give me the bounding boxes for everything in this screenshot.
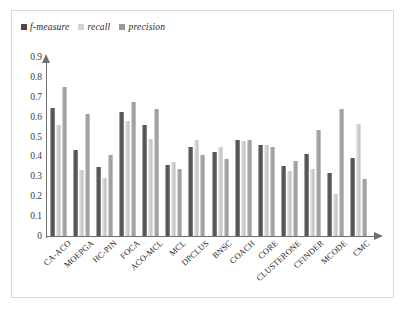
x-axis-tick-label: CMC — [351, 238, 372, 258]
bar-precision[interactable] — [108, 155, 113, 236]
bar-group — [347, 64, 370, 236]
y-axis-tick-label: 0.8 — [30, 73, 42, 83]
figure-container: f-measurerecallprecision 00.10.20.30.40.… — [0, 0, 406, 314]
legend-swatch-icon — [119, 24, 125, 30]
bar-precision[interactable] — [200, 155, 205, 236]
y-axis-tick-label: 0 — [37, 232, 42, 242]
bar-precision[interactable] — [316, 130, 321, 236]
x-axis-tick-label: HC-PIN — [90, 238, 118, 265]
bar-f-measure[interactable] — [304, 154, 309, 236]
bar-recall[interactable] — [333, 194, 338, 236]
bar-group — [116, 64, 139, 236]
bar-group — [185, 64, 208, 236]
y-axis-tick-label: 0.1 — [30, 212, 42, 222]
bar-f-measure[interactable] — [350, 158, 355, 236]
bar-f-measure[interactable] — [327, 173, 332, 236]
bar-recall[interactable] — [310, 169, 315, 236]
bar-recall[interactable] — [287, 171, 292, 236]
bar-group — [162, 64, 185, 236]
bar-f-measure[interactable] — [281, 166, 286, 236]
legend-entry-f-measure: f-measure — [21, 22, 69, 32]
bar-recall[interactable] — [356, 124, 361, 236]
bar-precision[interactable] — [247, 140, 252, 236]
bar-f-measure[interactable] — [50, 108, 55, 236]
bar-recall[interactable] — [194, 140, 199, 236]
legend-swatch-icon — [21, 24, 27, 30]
legend-entry-recall: recall — [78, 22, 110, 32]
bar-f-measure[interactable] — [212, 152, 217, 236]
bar-precision[interactable] — [154, 109, 159, 236]
bar-recall[interactable] — [102, 178, 107, 236]
bar-group — [324, 64, 347, 236]
bar-recall[interactable] — [171, 162, 176, 236]
legend-label: precision — [128, 22, 165, 32]
bar-f-measure[interactable] — [142, 125, 147, 236]
y-axis-tick-label: 0.4 — [30, 153, 42, 163]
y-axis-tick-label: 0.7 — [30, 93, 42, 103]
x-axis-tick-labels: CA-ACOMOEPGAHC-PINFOCAACO-MCLMCLDPCLUSBN… — [47, 238, 370, 310]
chart-legend: f-measurerecallprecision — [21, 22, 165, 32]
y-axis-tick-label: 0.6 — [30, 113, 42, 123]
y-axis-tick-label: 0.5 — [30, 133, 42, 143]
y-axis-tick-label: 0.2 — [30, 192, 42, 202]
bar-group — [70, 64, 93, 236]
bar-group — [255, 64, 278, 236]
bar-recall[interactable] — [264, 145, 269, 236]
bar-group — [301, 64, 324, 236]
bar-f-measure[interactable] — [119, 112, 124, 236]
bar-f-measure[interactable] — [73, 150, 78, 236]
bar-f-measure[interactable] — [96, 167, 101, 236]
bar-group — [139, 64, 162, 236]
bar-precision[interactable] — [270, 147, 275, 236]
bar-recall[interactable] — [218, 147, 223, 236]
y-axis-tick-labels: 00.10.20.30.40.50.60.70.80.9 — [16, 58, 42, 237]
legend-swatch-icon — [78, 24, 84, 30]
bar-f-measure[interactable] — [235, 140, 240, 236]
bar-group — [278, 64, 301, 236]
x-axis-arrowhead-icon — [374, 232, 383, 240]
bar-f-measure[interactable] — [165, 165, 170, 236]
bar-precision[interactable] — [131, 102, 136, 236]
bar-precision[interactable] — [62, 87, 67, 236]
y-axis-arrowhead-icon — [42, 54, 50, 63]
y-axis-tick-label: 0.3 — [30, 173, 42, 183]
bar-recall[interactable] — [79, 170, 84, 236]
bar-precision[interactable] — [362, 179, 367, 236]
bar-f-measure[interactable] — [258, 145, 263, 236]
bar-recall[interactable] — [148, 139, 153, 236]
plot-area — [47, 64, 370, 236]
bar-recall[interactable] — [56, 125, 61, 236]
x-axis-line — [46, 236, 376, 237]
bar-group — [209, 64, 232, 236]
legend-label: f-measure — [30, 22, 69, 32]
y-axis-tick-label: 0.9 — [30, 53, 42, 63]
bar-precision[interactable] — [177, 169, 182, 236]
bar-precision[interactable] — [85, 114, 90, 236]
bar-group — [47, 64, 70, 236]
legend-label: recall — [87, 22, 110, 32]
bar-precision[interactable] — [224, 159, 229, 236]
legend-entry-precision: precision — [119, 22, 165, 32]
bar-f-measure[interactable] — [188, 147, 193, 236]
bar-precision[interactable] — [339, 109, 344, 236]
bar-group — [232, 64, 255, 236]
bar-recall[interactable] — [125, 121, 130, 236]
bar-precision[interactable] — [293, 161, 298, 236]
bar-group — [93, 64, 116, 236]
bar-recall[interactable] — [241, 141, 246, 236]
